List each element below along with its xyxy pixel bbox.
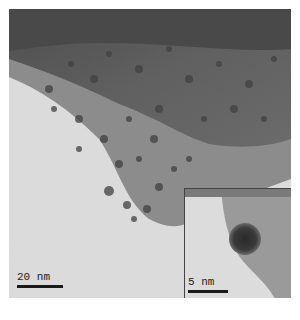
inset-scalebar: 5 nm: [188, 277, 228, 293]
nanoparticle: [229, 223, 261, 255]
inset-scalebar-label: 5 nm: [188, 277, 228, 288]
main-scalebar-label: 20 nm: [17, 272, 63, 283]
inset-highres: 5 nm: [184, 188, 291, 298]
inset-scalebar-line: [188, 290, 228, 293]
main-scalebar-line: [17, 285, 63, 288]
tem-micrograph: 20 nm 5 nm: [9, 9, 291, 298]
main-scalebar: 20 nm: [17, 272, 63, 288]
